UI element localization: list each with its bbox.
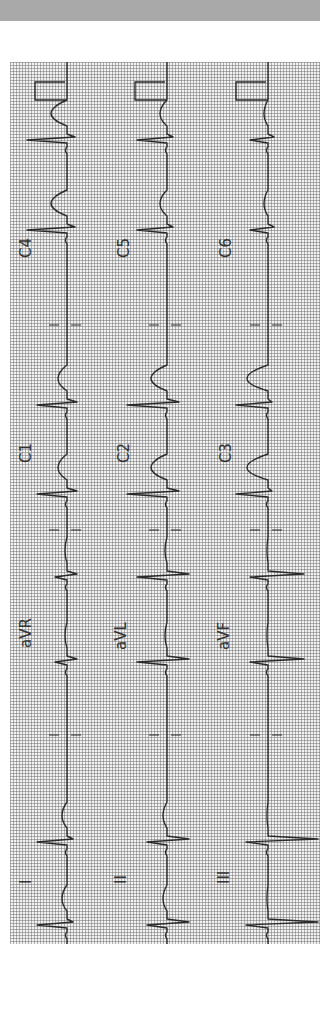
ecg-trace-column-1 xyxy=(27,62,77,944)
lead-label-aVR: aVR xyxy=(17,618,35,648)
lead-label-C1: C1 xyxy=(17,443,35,463)
lead-label-C3: C3 xyxy=(217,443,235,463)
lead-label-C6: C6 xyxy=(217,238,235,258)
lead-label-II: II xyxy=(112,875,130,884)
ecg-trace-column-3 xyxy=(236,62,318,944)
lead-label-C5: C5 xyxy=(115,238,133,258)
ecg-trace-column-2 xyxy=(127,62,189,944)
ecg-traces xyxy=(0,0,320,1022)
lead-label-C2: C2 xyxy=(115,443,133,463)
lead-label-aVF: aVF xyxy=(215,622,233,650)
lead-label-aVL: aVL xyxy=(112,622,130,650)
lead-label-C4: C4 xyxy=(17,238,35,258)
lead-label-I: I xyxy=(17,880,35,884)
lead-label-III: III xyxy=(215,871,233,884)
